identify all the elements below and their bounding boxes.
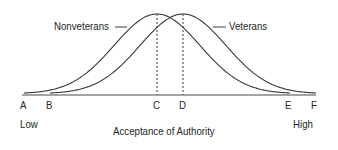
- high-label: High: [293, 119, 313, 130]
- tick-label-b: B: [46, 100, 52, 111]
- tick-label-a: A: [20, 100, 26, 111]
- tick-label-c: C: [153, 100, 160, 111]
- tick-label-f: F: [311, 100, 317, 111]
- tick-label-d: D: [179, 100, 186, 111]
- veterans-label: Veterans: [229, 21, 267, 32]
- tick-label-e: E: [285, 100, 291, 111]
- low-label: Low: [20, 119, 38, 130]
- axis-title: Acceptance of Authority: [113, 126, 215, 137]
- nonveterans-label: Nonveterans: [54, 21, 109, 32]
